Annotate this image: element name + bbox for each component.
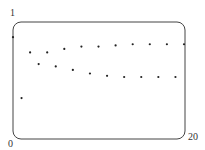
data-point [12,36,14,38]
data-point [106,75,108,77]
x-max-label: 20 [188,132,198,142]
data-points [12,36,185,99]
data-point [46,51,48,53]
data-point [123,76,125,78]
data-point [97,45,99,47]
data-point [140,76,142,78]
data-point [115,44,117,46]
data-point [149,43,151,45]
data-point [157,76,159,78]
data-point [80,45,82,47]
data-point [174,76,176,78]
data-point [132,43,134,45]
data-point [166,43,168,45]
data-point [55,65,57,67]
data-point [63,48,65,50]
data-point [183,43,185,45]
data-point [38,63,40,65]
data-point [72,69,74,71]
data-point [89,72,91,74]
x-min-label: 0 [8,139,13,149]
y-max-label: 1 [10,8,15,18]
plot-frame [13,22,185,139]
scatter-plot [0,0,205,150]
data-point [29,51,31,53]
data-point [20,97,22,99]
